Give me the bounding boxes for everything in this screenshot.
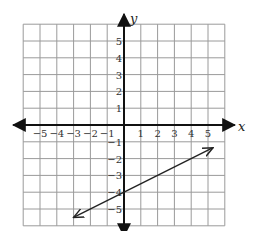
- x-tick-label: 2: [154, 128, 160, 139]
- y-tick-label: 5: [116, 36, 122, 47]
- y-tick-label: 3: [116, 70, 122, 81]
- y-tick-label: 4: [116, 53, 122, 64]
- x-tick-label: −5: [33, 128, 48, 139]
- y-tick-label: −3: [107, 170, 122, 181]
- y-tick-label: −1: [107, 137, 122, 148]
- x-tick-label: −2: [83, 128, 98, 139]
- y-tick-label: −5: [107, 204, 122, 215]
- x-tick-label: 5: [205, 128, 211, 139]
- x-tick-label: 3: [171, 128, 177, 139]
- y-axis-label: y: [129, 11, 138, 26]
- x-tick-label: −4: [49, 128, 64, 139]
- x-tick-label: 4: [188, 128, 194, 139]
- coordinate-plane: −5−4−3−2−11234554321−1−2−3−4−5 x y: [0, 0, 257, 231]
- x-tick-label: −3: [66, 128, 81, 139]
- x-tick-label: 1: [138, 128, 144, 139]
- x-axis-label: x: [238, 119, 246, 134]
- axes: [13, 14, 235, 231]
- y-tick-label: −2: [107, 154, 122, 165]
- y-tick-label: 1: [116, 103, 122, 114]
- y-tick-label: 2: [116, 86, 122, 97]
